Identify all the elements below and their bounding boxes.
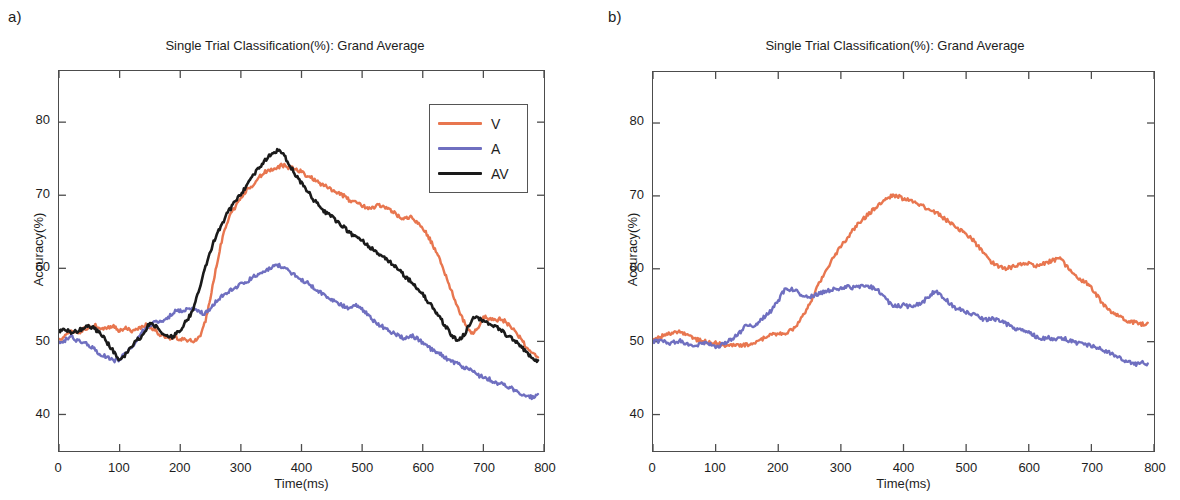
panel-b-xlabel: Time(ms) bbox=[652, 476, 1155, 491]
legend-item[interactable]: A bbox=[438, 136, 517, 161]
legend-swatch-v bbox=[438, 122, 482, 125]
x-tick-label: 600 bbox=[1006, 460, 1052, 475]
panel-b-ylabel: Accuracy(%) bbox=[625, 190, 640, 310]
y-tick-label: 60 bbox=[610, 260, 644, 275]
x-tick-label: 400 bbox=[881, 460, 927, 475]
y-tick-label: 70 bbox=[16, 186, 50, 201]
legend-item[interactable]: V bbox=[438, 111, 517, 136]
x-tick-label: 300 bbox=[818, 460, 864, 475]
x-tick-label: 700 bbox=[1069, 460, 1115, 475]
x-tick-label: 0 bbox=[35, 460, 81, 475]
panel-a-legend: V A AV bbox=[429, 104, 528, 193]
x-tick-label: 400 bbox=[279, 460, 325, 475]
x-tick-label: 500 bbox=[943, 460, 989, 475]
legend-label-v: V bbox=[491, 116, 500, 132]
y-tick-label: 80 bbox=[610, 113, 644, 128]
panel-a-xlabel: Time(ms) bbox=[58, 476, 545, 491]
panel-b-letter: b) bbox=[608, 8, 622, 25]
x-tick-label: 100 bbox=[692, 460, 738, 475]
legend-swatch-av bbox=[438, 172, 482, 176]
panel-b-plot-area bbox=[652, 71, 1155, 452]
x-tick-label: 600 bbox=[400, 460, 446, 475]
y-tick-label: 60 bbox=[16, 259, 50, 274]
x-tick-label: 800 bbox=[522, 460, 568, 475]
x-tick-label: 500 bbox=[339, 460, 385, 475]
panel-b: b) Single Trial Classification(%): Grand… bbox=[590, 0, 1180, 500]
x-tick-label: 200 bbox=[755, 460, 801, 475]
y-tick-label: 40 bbox=[610, 406, 644, 421]
y-tick-label: 50 bbox=[16, 333, 50, 348]
series-line bbox=[653, 194, 1148, 346]
panel-b-lines bbox=[653, 72, 1154, 451]
y-tick-label: 40 bbox=[16, 406, 50, 421]
x-tick-label: 200 bbox=[157, 460, 203, 475]
x-tick-label: 300 bbox=[218, 460, 264, 475]
legend-swatch-a bbox=[438, 147, 482, 150]
x-tick-label: 700 bbox=[461, 460, 507, 475]
panel-b-title: Single Trial Classification(%): Grand Av… bbox=[610, 38, 1180, 53]
y-tick-label: 80 bbox=[16, 112, 50, 127]
panel-a-letter: a) bbox=[8, 8, 22, 25]
legend-label-av: AV bbox=[491, 166, 509, 182]
series-line bbox=[653, 285, 1148, 366]
panel-a: a) Single Trial Classification(%): Grand… bbox=[0, 0, 590, 500]
legend-label-a: A bbox=[491, 141, 500, 157]
x-tick-label: 800 bbox=[1132, 460, 1178, 475]
panel-a-ylabel: Accuracy(%) bbox=[31, 190, 46, 310]
legend-item[interactable]: AV bbox=[438, 161, 517, 186]
panel-a-title: Single Trial Classification(%): Grand Av… bbox=[0, 38, 590, 53]
y-tick-label: 50 bbox=[610, 333, 644, 348]
x-tick-label: 100 bbox=[96, 460, 142, 475]
panel-b-plot-inner bbox=[653, 72, 1154, 451]
y-tick-label: 70 bbox=[610, 187, 644, 202]
x-tick-label: 0 bbox=[629, 460, 675, 475]
